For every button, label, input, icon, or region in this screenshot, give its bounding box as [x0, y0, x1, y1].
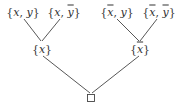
- brace-open: {: [6, 6, 13, 19]
- node-mid-xbar: {x}: [130, 44, 150, 55]
- brace-close: }: [33, 6, 40, 19]
- brace-close: }: [127, 6, 134, 19]
- brace-open: {: [47, 6, 54, 19]
- edge-leaf1-midleft: [24, 19, 41, 41]
- brace-open: {: [142, 6, 149, 19]
- node-leaf-x-y: {x, y}: [6, 7, 39, 18]
- brace-open: {: [130, 43, 137, 56]
- node-leaf-x-ybar: {x, y}: [47, 7, 80, 18]
- node-leaf-xbar-ybar: {x, y}: [142, 7, 175, 18]
- brace-close: }: [169, 6, 176, 19]
- node-mid-x: {x}: [32, 44, 52, 55]
- edge-leaf2-midleft: [42, 19, 60, 41]
- brace-close: }: [45, 43, 52, 56]
- root-node-square: [88, 95, 95, 102]
- tree-diagram: {x, y} {x, y} {x, y} {x, y} {x} {x}: [0, 0, 183, 107]
- brace-open: {: [100, 6, 107, 19]
- edge-leaf3-midright: [117, 19, 139, 41]
- brace-close: }: [74, 6, 81, 19]
- brace-close: }: [143, 43, 150, 56]
- brace-open: {: [32, 43, 39, 56]
- edge-midleft-root: [43, 56, 90, 93]
- node-leaf-xbar-y: {x, y}: [100, 7, 133, 18]
- edge-midright-root: [92, 56, 139, 93]
- edge-leaf4-midright: [140, 19, 157, 41]
